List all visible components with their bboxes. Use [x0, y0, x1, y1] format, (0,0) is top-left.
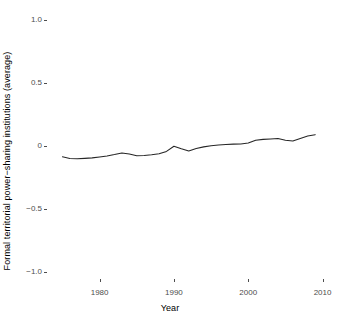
x-tick-label: 1980 — [80, 288, 120, 297]
x-tick-label: 2000 — [228, 288, 268, 297]
series-path-power-sharing — [62, 135, 315, 159]
y-tick-mark — [44, 20, 47, 21]
plot-area — [55, 10, 330, 282]
x-tick-label: 2010 — [303, 288, 340, 297]
y-tick-label: 1.0 — [8, 15, 42, 24]
y-tick-mark — [44, 83, 47, 84]
y-tick-mark — [44, 272, 47, 273]
y-tick-label: −1.0 — [8, 267, 42, 276]
y-tick-label: 0 — [8, 141, 42, 150]
x-axis-title: Year — [0, 303, 340, 313]
y-tick-label: −0.5 — [8, 204, 42, 213]
y-tick-mark — [44, 209, 47, 210]
y-tick-mark — [44, 146, 47, 147]
series-line — [55, 10, 330, 282]
y-tick-label: 0.5 — [8, 78, 42, 87]
line-chart: Formal territorial power−sharing institu… — [0, 0, 340, 322]
x-tick-label: 1990 — [154, 288, 194, 297]
